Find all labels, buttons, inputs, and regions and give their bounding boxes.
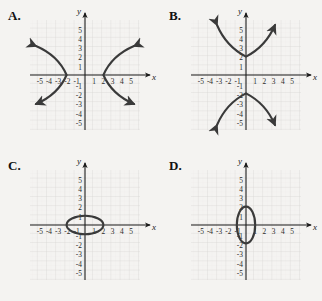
panel-b-y-label: y <box>237 6 242 16</box>
svg-text:5: 5 <box>290 227 294 236</box>
svg-text:5: 5 <box>129 77 133 86</box>
svg-text:5: 5 <box>239 176 243 185</box>
svg-text:3: 3 <box>111 227 115 236</box>
svg-text:5: 5 <box>78 26 82 35</box>
svg-text:5: 5 <box>239 26 243 35</box>
panel-c-axis-name-y: y <box>76 156 81 166</box>
panel-d: D. x <box>161 150 322 300</box>
svg-text:-5: -5 <box>237 119 243 128</box>
panel-d-y-label: y <box>237 156 242 166</box>
svg-text:4: 4 <box>281 227 285 236</box>
panel-c-axis-name-x: x <box>151 222 156 232</box>
svg-text:-4: -4 <box>207 227 213 236</box>
svg-text:-3: -3 <box>76 100 82 109</box>
svg-text:3: 3 <box>239 194 243 203</box>
svg-text:-3: -3 <box>216 77 222 86</box>
svg-text:2: 2 <box>263 227 267 236</box>
panel-d-axis-name-y: y <box>237 156 242 166</box>
panel-a-axis-name-x: x <box>151 72 156 82</box>
svg-text:-4: -4 <box>207 77 213 86</box>
panel-c-y-label: y <box>76 156 81 166</box>
svg-text:4: 4 <box>120 227 124 236</box>
svg-text:4: 4 <box>78 35 82 44</box>
svg-text:-3: -3 <box>55 227 61 236</box>
panel-b-axis-name-x: x <box>312 72 317 82</box>
svg-text:-5: -5 <box>237 269 243 278</box>
svg-text:1: 1 <box>239 63 243 72</box>
panel-d-axis-name-x: x <box>312 222 317 232</box>
panel-d-x-label: x <box>312 222 317 232</box>
svg-text:-1: -1 <box>76 82 82 91</box>
svg-text:3: 3 <box>272 77 276 86</box>
svg-text:1: 1 <box>239 213 243 222</box>
svg-text:1: 1 <box>78 63 82 72</box>
svg-text:-4: -4 <box>76 260 82 269</box>
panel-a-y-label: y <box>76 6 81 16</box>
panel-d-plot: x y -5 -4 -3 -2 -1 1 2 3 4 5 5 4 3 2 <box>161 150 322 301</box>
svg-text:4: 4 <box>239 35 243 44</box>
svg-text:-5: -5 <box>76 269 82 278</box>
svg-text:-5: -5 <box>37 227 43 236</box>
panel-b-axis-name-y: y <box>237 6 242 16</box>
svg-text:-5: -5 <box>37 77 43 86</box>
svg-text:-2: -2 <box>76 241 82 250</box>
svg-text:-2: -2 <box>225 77 231 86</box>
panel-a-plot: x y -5 -4 -3 -2 -1 1 2 3 4 5 5 4 3 2 <box>0 0 161 150</box>
svg-text:5: 5 <box>78 176 82 185</box>
svg-text:3: 3 <box>272 227 276 236</box>
svg-text:-2: -2 <box>76 91 82 100</box>
panel-c-plot: x y -5 -4 -3 -2 -1 1 2 3 4 5 5 4 3 2 <box>0 150 161 301</box>
svg-text:3: 3 <box>111 77 115 86</box>
svg-text:3: 3 <box>78 44 82 53</box>
svg-text:-2: -2 <box>225 227 231 236</box>
svg-text:4: 4 <box>239 185 243 194</box>
svg-text:1: 1 <box>253 77 257 86</box>
svg-text:5: 5 <box>290 77 294 86</box>
svg-text:2: 2 <box>263 77 267 86</box>
panel-b-plot: x y -5 -4 -3 -2 -1 1 2 3 4 5 5 4 3 2 <box>161 0 322 150</box>
svg-text:-5: -5 <box>198 227 204 236</box>
panel-b-x-label: x <box>312 72 317 82</box>
svg-text:-3: -3 <box>216 227 222 236</box>
svg-text:4: 4 <box>120 77 124 86</box>
svg-text:-3: -3 <box>237 250 243 259</box>
svg-text:4: 4 <box>281 77 285 86</box>
panel-a-x-label: x <box>151 72 156 82</box>
svg-text:2: 2 <box>78 203 82 212</box>
svg-text:4: 4 <box>78 185 82 194</box>
svg-text:-4: -4 <box>46 77 52 86</box>
panel-a-axis-name-y: y <box>76 6 81 16</box>
svg-text:-3: -3 <box>237 100 243 109</box>
svg-text:5: 5 <box>129 227 133 236</box>
panel-c-x-label: x <box>151 222 156 232</box>
svg-text:-5: -5 <box>198 77 204 86</box>
svg-text:3: 3 <box>78 194 82 203</box>
svg-text:-1: -1 <box>237 82 243 91</box>
svg-text:-4: -4 <box>237 260 243 269</box>
svg-text:-3: -3 <box>76 250 82 259</box>
panel-c: C. x <box>0 150 161 300</box>
svg-text:-4: -4 <box>46 227 52 236</box>
svg-text:1: 1 <box>92 77 96 86</box>
svg-text:-5: -5 <box>76 119 82 128</box>
panel-a: A. <box>0 0 161 150</box>
svg-text:2: 2 <box>78 53 82 62</box>
panel-b: B. <box>161 0 322 150</box>
svg-text:-4: -4 <box>237 110 243 119</box>
svg-text:-4: -4 <box>76 110 82 119</box>
